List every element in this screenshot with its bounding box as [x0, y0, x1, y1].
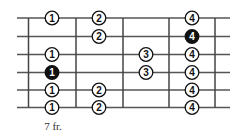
finger-number: 4 — [189, 102, 195, 113]
finger-note-dot: 1 — [45, 83, 59, 97]
finger-note-dot: 4 — [185, 48, 199, 62]
fretboard-diagram: 12424134134124124 — [0, 0, 242, 138]
finger-number: 1 — [49, 102, 55, 113]
finger-note-dot: 2 — [92, 11, 106, 25]
finger-number: 2 — [96, 85, 102, 96]
finger-note-dot: 4 — [185, 11, 199, 25]
finger-number: 1 — [49, 49, 55, 60]
finger-note-dot: 4 — [185, 66, 199, 80]
finger-note-dot: 4 — [185, 83, 199, 97]
finger-number: 1 — [49, 85, 55, 96]
finger-note-dot: 1 — [45, 11, 59, 25]
finger-note-dot: 4 — [185, 101, 199, 115]
finger-note-dot: 1 — [45, 101, 59, 115]
finger-note-dot: 2 — [92, 101, 106, 115]
finger-note-dot: 2 — [92, 30, 106, 44]
finger-number: 4 — [189, 85, 195, 96]
finger-number: 2 — [96, 13, 102, 24]
finger-number: 2 — [96, 31, 102, 42]
finger-number: 4 — [189, 67, 195, 78]
finger-note-dot: 3 — [139, 66, 153, 80]
root-note-dot: 4 — [185, 30, 199, 44]
finger-note-dot: 1 — [45, 48, 59, 62]
finger-note-dot: 3 — [139, 48, 153, 62]
finger-number: 4 — [189, 49, 195, 60]
finger-number: 3 — [143, 49, 149, 60]
finger-number: 1 — [49, 67, 55, 78]
finger-number: 4 — [189, 13, 195, 24]
finger-number: 3 — [143, 67, 149, 78]
fret-position-label: 7 fr. — [33, 120, 73, 132]
finger-notes: 12424134134124124 — [45, 11, 199, 114]
root-note-dot: 1 — [45, 66, 59, 80]
finger-number: 4 — [189, 31, 195, 42]
finger-note-dot: 2 — [92, 83, 106, 97]
finger-number: 1 — [49, 13, 55, 24]
finger-number: 2 — [96, 102, 102, 113]
